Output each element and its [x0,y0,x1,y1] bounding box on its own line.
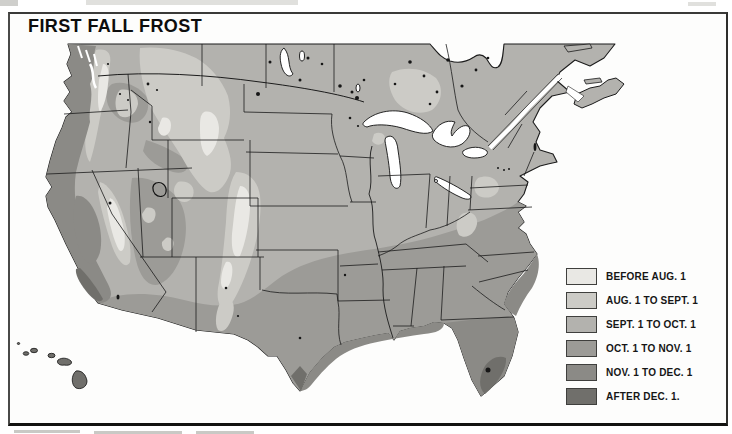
legend-swatch [566,268,597,285]
lake-manitoba [300,51,305,61]
legend-item: BEFORE AUG. 1 [566,267,698,285]
legend-swatch [566,364,597,381]
lake-st-clair [435,180,438,183]
legend-label: SEPT. 1 TO OCT. 1 [606,319,696,330]
map-title: FIRST FALL FROST [28,16,202,37]
lake-ontario [463,147,488,158]
legend-swatch [566,316,597,333]
hawaii-island [23,352,29,356]
hawaii-islands [17,343,87,389]
legend-item: SEPT. 1 TO OCT. 1 [566,315,698,333]
legend-label: OCT. 1 TO NOV. 1 [606,343,691,354]
hawaii-island [17,343,19,345]
legend-item: AFTER DEC. 1. [566,387,698,405]
legend-item: NOV. 1 TO DEC. 1 [566,363,698,381]
legend: BEFORE AUG. 1 AUG. 1 TO SEPT. 1 SEPT. 1 … [566,267,698,411]
cut-off-caption-artifact [14,430,80,433]
canadian-lake [356,84,360,92]
legend-label: AFTER DEC. 1. [606,391,680,402]
legend-label: NOV. 1 TO DEC. 1 [606,367,693,378]
legend-swatch [566,340,597,357]
legend-label: BEFORE AUG. 1 [606,271,686,282]
hawaii-big-island [72,371,87,389]
legend-item: AUG. 1 TO SEPT. 1 [566,291,698,309]
legend-swatch [566,292,597,309]
hawaii-island [31,348,38,352]
hawaii-island [48,353,55,357]
legend-item: OCT. 1 TO NOV. 1 [566,339,698,357]
legend-swatch [566,388,597,405]
hawaii-island-maui [57,358,71,365]
legend-label: AUG. 1 TO SEPT. 1 [606,295,698,306]
scanned-map-page: FIRST FALL FROST BEFORE AUG. 1 AUG. 1 TO… [0,0,732,434]
prince-edward-island [584,78,602,84]
